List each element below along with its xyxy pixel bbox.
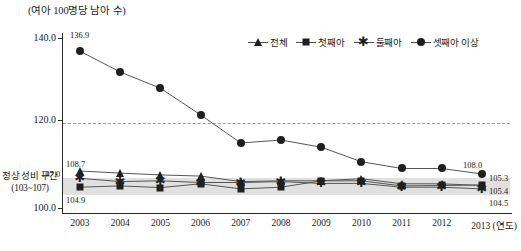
data-point-circle-2008: [277, 136, 285, 144]
normal-band-label-line2: (103~107): [0, 182, 60, 194]
chart-screenshot: (여아 100명당 남아 수) 140.0 120.0 100.0 정상 성비 …: [0, 0, 521, 251]
data-point-circle-2010: [357, 158, 365, 166]
x-tick-label-2012: 2012: [432, 218, 451, 228]
data-point-star-2005: ✱: [155, 177, 166, 185]
point-label-2013-total: 105.3: [489, 173, 508, 183]
x-tick-label-2005: 2005: [151, 218, 170, 228]
x-tick-label-2007: 2007: [231, 218, 250, 228]
data-point-circle-2003: [76, 47, 84, 55]
x-axis-line: [62, 213, 512, 214]
point-label-2003-second: 107.0: [41, 169, 60, 179]
data-point-star-2008: ✱: [276, 178, 287, 186]
x-tick-label-2004: 2004: [111, 218, 130, 228]
y-tick-label-140: 140.0: [34, 32, 57, 43]
data-point-star-2004: ✱: [115, 178, 126, 186]
data-point-circle-2005: [156, 84, 164, 92]
x-tick-label-2003: 2003: [71, 218, 90, 228]
point-label-2013-first: 105.4: [489, 186, 508, 196]
x-tick-label-2006: 2006: [191, 218, 210, 228]
x-tick-label-2013: 2013 (연도): [471, 218, 517, 232]
data-point-star-2012: ✱: [436, 183, 447, 191]
x-tick-label-2011: 2011: [392, 218, 411, 228]
point-label-2013-second: 104.5: [489, 198, 508, 208]
data-point-star-2013: ✱: [477, 185, 488, 193]
data-point-star-2011: ✱: [396, 183, 407, 191]
y-tick-label-120: 120.0: [34, 114, 57, 125]
data-point-circle-2009: [317, 143, 325, 151]
y-axis-unit-title: (여아 100명당 남아 수): [28, 2, 126, 17]
data-point-star-2010: ✱: [356, 179, 367, 187]
data-point-circle-2013: [478, 170, 486, 178]
plot-area: ✱✱✱✱✱✱✱✱✱✱✱: [63, 33, 510, 213]
x-tick-label-2009: 2009: [312, 218, 331, 228]
data-point-star-2006: ✱: [195, 179, 206, 187]
point-label-2013-third: 108.0: [463, 160, 482, 170]
data-point-circle-2011: [398, 164, 406, 172]
series-line-circle: [80, 51, 482, 174]
y-tick-label-100: 100.0: [34, 202, 57, 213]
data-point-circle-2006: [197, 111, 205, 119]
data-point-circle-2004: [116, 68, 124, 76]
data-point-circle-2012: [438, 164, 446, 172]
data-point-star-2003: ✱: [75, 174, 86, 182]
point-label-2003-total: 108.7: [66, 159, 85, 169]
point-label-2003-first: 104.9: [66, 195, 85, 205]
x-tick-label-2008: 2008: [272, 218, 291, 228]
data-point-star-2009: ✱: [316, 179, 327, 187]
data-point-circle-2007: [237, 139, 245, 147]
data-point-star-2007: ✱: [235, 179, 246, 187]
point-label-2003-third: 136.9: [70, 30, 89, 40]
x-tick-label-2010: 2010: [352, 218, 371, 228]
